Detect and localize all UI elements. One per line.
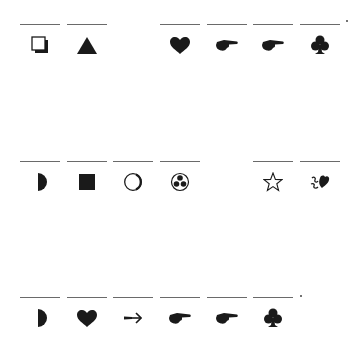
pointing-hand-icon [207,34,247,56]
half-circle-icon [20,307,60,329]
answer-blank[interactable] [67,297,107,298]
cipher-slot [253,297,293,337]
pointing-hand-icon [253,34,293,56]
answer-blank[interactable] [253,24,293,25]
circle-icon [113,171,153,193]
answer-blank[interactable] [253,161,293,162]
answer-blank[interactable] [20,297,60,298]
cipher-slot [67,161,107,201]
cipher-row-1 [0,24,360,64]
cipher-slot [300,161,340,201]
answer-blank[interactable] [67,24,107,25]
shadowed-square-icon [20,34,60,56]
cipher-slot [20,161,60,201]
cipher-slot [207,24,247,64]
club-icon [300,34,340,56]
heart-icon [67,307,107,329]
cipher-slot [113,297,153,337]
cipher-slot [207,297,247,337]
cipher-slot [20,297,60,337]
heart-icon [160,34,200,56]
cipher-slot [160,24,200,64]
answer-blank[interactable] [20,24,60,25]
answer-blank[interactable] [67,161,107,162]
cipher-slot [253,161,293,201]
club-icon [253,307,293,329]
cipher-slot [160,297,200,337]
floral-heart-icon [300,171,340,193]
answer-blank[interactable] [113,161,153,162]
cipher-slot [67,297,107,337]
cipher-slot [300,24,340,64]
pointing-hand-icon [207,307,247,329]
cipher-row-3 [0,297,360,337]
answer-blank[interactable] [300,24,340,25]
star-outline-icon [253,171,293,193]
half-circle-icon [20,171,60,193]
trefoil-circle-icon [160,171,200,193]
answer-blank[interactable] [207,297,247,298]
cipher-slot [160,161,200,201]
answer-blank[interactable] [113,297,153,298]
answer-blank[interactable] [20,161,60,162]
answer-blank[interactable] [160,297,200,298]
cipher-row-2 [0,161,360,201]
stray-mark [346,20,348,22]
cipher-slot [113,161,153,201]
arrow-icon [113,307,153,329]
answer-blank[interactable] [160,24,200,25]
stray-mark [300,295,302,297]
answer-blank[interactable] [300,161,340,162]
square-icon [67,171,107,193]
answer-blank[interactable] [207,24,247,25]
cipher-slot [20,24,60,64]
triangle-icon [67,34,107,56]
answer-blank[interactable] [160,161,200,162]
pointing-hand-icon [160,307,200,329]
answer-blank[interactable] [253,297,293,298]
cipher-slot [253,24,293,64]
cipher-slot [67,24,107,64]
